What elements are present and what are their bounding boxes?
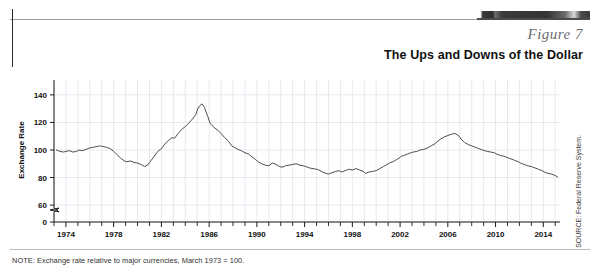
x-tick-label: 1986 xyxy=(200,230,218,239)
x-tick-label: 1982 xyxy=(153,230,171,239)
x-tick-label: 1998 xyxy=(343,230,361,239)
x-tick-label: 1978 xyxy=(105,230,123,239)
chart-series xyxy=(56,104,557,177)
x-tick-label: 1974 xyxy=(57,230,75,239)
page-root: Figure 7 The Ups and Downs of the Dollar… xyxy=(0,0,599,274)
chart-note: NOTE: Exchange rate relative to major cu… xyxy=(12,256,244,265)
x-tick-label: 2014 xyxy=(534,230,552,239)
y-tick-label: 120 xyxy=(34,118,48,127)
x-tick-label: 1994 xyxy=(296,230,314,239)
chart-container: 0608010012014019741978198219861990199419… xyxy=(8,74,568,242)
y-tick-label: 80 xyxy=(38,174,47,183)
y-axis-break-symbol xyxy=(50,208,59,212)
chart-gridlines xyxy=(54,80,560,222)
figure-label: Figure 7 xyxy=(527,26,583,43)
y-tick-label: 0 xyxy=(43,218,48,227)
y-tick-label: 60 xyxy=(38,201,47,210)
line-chart: 0608010012014019741978198219861990199419… xyxy=(8,74,568,242)
y-tick-label: 100 xyxy=(34,146,48,155)
series-line xyxy=(56,104,557,177)
chart-source: SOURCE: Federal Reserve System. xyxy=(575,135,582,248)
bottom-horizontal-rule xyxy=(10,249,590,250)
x-tick-label: 1990 xyxy=(248,230,266,239)
x-tick-label: 2010 xyxy=(487,230,505,239)
left-vertical-rule xyxy=(12,9,13,67)
decorative-bar xyxy=(477,11,590,20)
y-tick-label: 140 xyxy=(34,91,48,100)
y-axis-title: Exchange Rate xyxy=(17,121,26,179)
page-title: The Ups and Downs of the Dollar xyxy=(384,48,583,62)
x-tick-label: 2006 xyxy=(439,230,457,239)
x-tick-label: 2002 xyxy=(391,230,409,239)
